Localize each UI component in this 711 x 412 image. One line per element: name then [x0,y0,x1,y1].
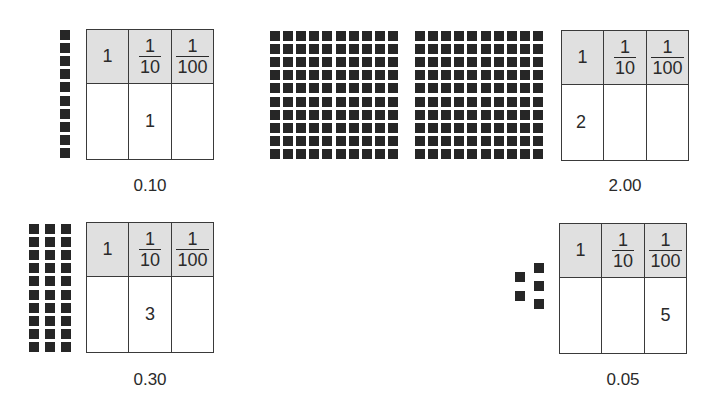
decimal-caption: 0.10 [86,176,214,196]
unit-square-block [388,83,398,93]
unit-square-block [60,82,70,92]
unit-square-block [362,149,372,159]
unit-square-block [415,136,425,146]
unit-square-block [60,122,70,132]
unit-square-block [309,44,319,54]
unit-square-block [283,110,293,120]
unit-square-block [415,97,425,107]
unit-square-block [481,70,491,80]
unit-square-block [283,83,293,93]
unit-square-block [441,97,451,107]
unit-square-block [481,44,491,54]
unit-square-block [533,97,543,107]
unit-square-block [533,83,543,93]
unit-square-block [283,44,293,54]
unit-square-block [481,97,491,107]
unit-square-block [322,70,332,80]
unit-square-block [322,136,332,146]
unit-square-block [515,272,525,282]
unit-square-block [349,31,359,41]
unit-square-block [349,110,359,120]
unit-square-block [494,110,504,120]
unit-square-block [507,70,517,80]
unit-square-block [60,56,70,66]
decimal-caption: 0.30 [86,370,214,390]
unit-square-block [61,276,71,286]
place-value-table: 1 110 1100 2 [561,30,689,161]
unit-square-block [29,263,39,273]
unit-square-block [375,110,385,120]
unit-square-block [309,149,319,159]
unit-square-block [309,136,319,146]
unit-square-block [520,123,530,133]
unit-square-block [362,31,372,41]
tenths-digit [604,85,647,160]
unit-square-block [507,83,517,93]
unit-square-block [507,149,517,159]
ones-header: 1 [87,30,129,84]
ones-digit: 2 [562,85,604,160]
unit-square-block [520,83,530,93]
unit-square-block [309,123,319,133]
unit-square-block [441,31,451,41]
unit-square-block [336,44,346,54]
unit-square-block [494,83,504,93]
unit-square-block [454,110,464,120]
unit-square-block [270,110,280,120]
unit-square-block [441,70,451,80]
unit-square-block [520,97,530,107]
unit-square-block [60,135,70,145]
unit-square-block [533,70,543,80]
unit-square-block [349,136,359,146]
unit-square-block [520,149,530,159]
unit-square-block [415,83,425,93]
unit-square-block [349,97,359,107]
unit-square-block [388,149,398,159]
unit-square-block [296,97,306,107]
hundredths-header: 1100 [647,31,688,85]
ones-digit [560,278,602,353]
unit-square-block [60,109,70,119]
unit-square-block [29,276,39,286]
unit-square-block [454,70,464,80]
unit-square-block [533,149,543,159]
unit-square-block [467,44,477,54]
unit-square-block [61,263,71,273]
unit-square-block [507,110,517,120]
unit-square-block [494,44,504,54]
hundredths-digit [172,277,213,352]
unit-square-block [309,97,319,107]
unit-square-block [467,123,477,133]
unit-square-block [467,110,477,120]
unit-square-block [270,136,280,146]
unit-square-block [481,83,491,93]
unit-square-block [534,299,544,309]
unit-square-block [428,123,438,133]
unit-square-block [415,123,425,133]
unit-square-block [61,303,71,313]
unit-square-block [61,290,71,300]
unit-square-block [362,83,372,93]
unit-square-block [283,31,293,41]
unit-square-block [283,149,293,159]
unit-square-block [375,57,385,67]
unit-square-block [270,97,280,107]
unit-square-block [467,149,477,159]
unit-square-block [428,110,438,120]
unit-square-block [336,110,346,120]
unit-square-block [45,329,55,339]
unit-square-block [322,97,332,107]
unit-square-block [349,83,359,93]
unit-square-block [428,57,438,67]
unit-square-block [362,97,372,107]
unit-square-block [441,44,451,54]
unit-square-block [349,149,359,159]
unit-square-block [362,136,372,146]
unit-square-block [270,44,280,54]
place-value-table: 1 110 1100 1 [86,29,214,160]
unit-square-block [296,31,306,41]
tenths-digit: 1 [129,84,172,159]
unit-square-block [428,97,438,107]
unit-square-block [520,44,530,54]
unit-square-block [481,57,491,67]
